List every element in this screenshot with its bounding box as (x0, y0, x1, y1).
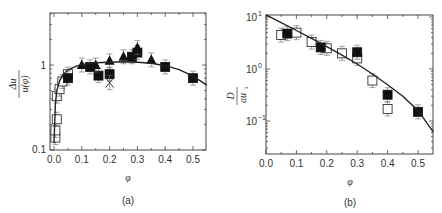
y-tick-label: 10 (246, 64, 258, 75)
panel-b: 0.00.10.20.30.40.5 10110010−1 D au s φ (… (225, 10, 433, 208)
x-tick-label: 0.1 (75, 154, 89, 165)
data-point-open-square (51, 126, 60, 135)
data-point-filled-square (283, 29, 292, 38)
y-label-denominator: u(φ) (19, 75, 31, 93)
plot-area-b (266, 15, 433, 132)
x-tick-label: 0.1 (289, 158, 303, 169)
data-point-filled-square (94, 71, 103, 80)
y-axis-label-a: Δu u(φ) (7, 70, 31, 98)
x-tick-labels-b: 0.00.10.20.30.40.5 (259, 158, 425, 169)
x-tick-label: 0.5 (186, 154, 200, 165)
y-label-numerator: Δu (7, 79, 18, 91)
panel-caption-a: (a) (122, 195, 134, 206)
y-tick-label: 10 (246, 12, 258, 23)
x-tick-label: 0.0 (47, 154, 61, 165)
y-tick-exponent: −1 (258, 114, 266, 121)
data-point-triangle (105, 55, 115, 65)
y-label-denominator: au (237, 93, 248, 103)
y-tick-label: 10 (246, 116, 258, 127)
ticks-a (50, 13, 206, 150)
panel-caption-b: (b) (344, 197, 356, 208)
x-tick-label: 0.3 (350, 158, 364, 169)
x-tick-label: 0.4 (158, 154, 172, 165)
y-tick-label: 0.1 (32, 144, 46, 155)
x-tick-labels-a: 0.00.10.20.30.40.5 (47, 154, 200, 165)
data-point-open-square (383, 105, 392, 114)
x-tick-label: 0.3 (130, 154, 144, 165)
data-point-filled-square (353, 48, 362, 57)
y-label-subscript: s (243, 86, 249, 89)
x-tick-label: 0.0 (259, 158, 273, 169)
data-point-open-square (52, 115, 61, 124)
data-point-filled-square (383, 90, 392, 99)
y-tick-label: 1 (40, 60, 46, 71)
plot-area-a (51, 41, 207, 145)
x-tick-label: 0.2 (320, 158, 334, 169)
figure: 0.00.10.20.30.40.5 0.1 1 Δu u(φ) φ (a) 0… (0, 0, 442, 213)
x-tick-label: 0.5 (411, 158, 425, 169)
panel-a: 0.00.10.20.30.40.5 0.1 1 Δu u(φ) φ (a) (7, 13, 207, 206)
x-tick-label: 0.2 (103, 154, 117, 165)
y-tick-labels-b: 10110010−1 (246, 10, 266, 127)
x-axis-label-b: φ (347, 176, 353, 187)
data-point-triangle (132, 42, 142, 52)
x-axis-label-a: φ (125, 172, 131, 183)
axes-frame-a (50, 13, 206, 150)
y-label-numerator: D (225, 92, 236, 101)
y-tick-exponent: 0 (258, 62, 262, 69)
fit-curve (54, 62, 207, 144)
y-tick-exponent: 1 (258, 10, 262, 17)
y-axis-label-b: D au s (225, 86, 249, 105)
data-point-open-square (368, 76, 377, 85)
x-tick-label: 0.4 (381, 158, 395, 169)
data-point-filled-square (63, 74, 72, 83)
